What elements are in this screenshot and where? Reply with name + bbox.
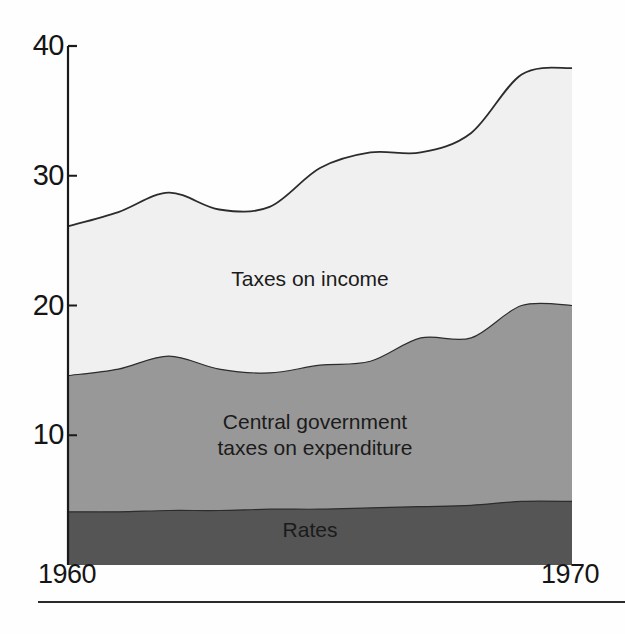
x-axis-label-start: 1960 (38, 561, 96, 588)
series-label-taxes-on-income: Taxes on income (150, 266, 470, 292)
x-axis-label-end: 1970 (541, 561, 599, 588)
area-bands (68, 68, 572, 565)
y-axis-tick-label-20: 20 (6, 291, 64, 320)
series-label-rates: Rates (200, 517, 420, 543)
y-axis-tick-label-30: 30 (6, 161, 64, 190)
series-label-central-government-taxes-on-expenditure: Central government taxes on expenditure (150, 409, 480, 461)
y-axis-tick-label-40: 40 (6, 31, 64, 60)
chart-figure: 40302010 1960 1970 Taxes on income Centr… (0, 0, 625, 634)
bottom-divider-rule (38, 601, 625, 603)
y-axis-tick-label-10: 10 (6, 420, 64, 449)
